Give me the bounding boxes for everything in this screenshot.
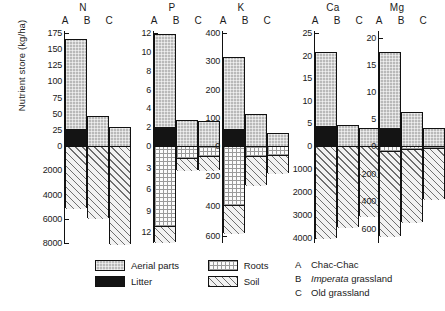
axis-tick-label: 50 [35,109,62,119]
bar-negative-n-B [87,146,109,218]
axis-tick-label: 12 [124,28,151,38]
bar-positive-p-A [154,34,176,146]
bar-positive-mg-B [401,112,423,146]
panel-mg: MgABC05101520200400600 [350,0,436,250]
axis-tick-label: 25 [285,28,312,38]
bar-positive-n-B [87,116,109,146]
segment-soil [424,148,444,199]
bar-negative-ca-A [315,146,337,238]
legend-item-litter: Litter [95,273,205,289]
legend-swatch-soil [208,276,238,287]
segment-aerial-parts [424,129,444,147]
group-labels: ABC [194,15,286,28]
key-row-b: BImperata grassland [295,271,392,285]
segment-soil [316,147,336,239]
bar-positive-mg-A [379,52,401,146]
legend: Aerial partsLitter RootsSoil [95,257,318,289]
bar-negative-k-B [245,146,267,185]
legend-label: Litter [131,276,205,287]
axis-tick-label: 10 [285,96,312,106]
segment-aerial-parts [155,35,175,127]
segment-aerial-parts [88,117,108,147]
panel-p: PABC02468101236912 [125,0,195,250]
axis-tick-label: 20 [349,33,376,43]
axis-tick-label: 0 [124,141,151,151]
axis-tick-label: 0 [349,141,376,151]
axis-tick-label: 300 [193,56,220,66]
axis-tick [314,33,319,34]
segment-litter [380,128,400,147]
segment-aerial-parts [402,113,422,147]
axis-tick-label: 400 [193,201,220,211]
panel-ca: CaABC05101520251000200030004000 [286,0,350,250]
bar-positive-mg-C [423,128,445,146]
group-label-c: C [102,15,116,26]
axis-tick [222,236,227,237]
key-letter: C [295,287,311,298]
key-label: Old grassland [311,287,370,298]
group-label-a: A [308,15,322,26]
segment-soil [402,149,422,223]
key-letter: B [295,273,311,284]
panel-title-k: K [208,2,274,13]
legend-label: Aerial parts [131,260,205,271]
axis-tick [378,38,383,39]
segment-roots [246,147,266,156]
axis-tick-label: 0 [193,141,220,151]
group-label-a: A [372,15,386,26]
bar-negative-mg-C [423,146,445,199]
group-label-a: A [58,15,72,26]
axis-tick [222,33,227,34]
bar-negative-k-A [223,146,245,233]
panel-n: NABC02550751001251501752000400060008000 [36,0,124,250]
axis-tick-label: 10 [124,47,151,57]
group-label-a: A [147,15,161,26]
axis-tick-label: 3000 [285,210,312,220]
segment-aerial-parts [66,40,86,128]
axis-tick-label: 15 [285,73,312,83]
legend-swatch-litter [95,276,125,287]
key-row-c: COld grassland [295,285,392,299]
axis-tick-label: 4000 [35,190,62,200]
axis-tick-label: 2000 [35,165,62,175]
axis-tick-label: 400 [349,196,376,206]
axis-tick-label: 12 [124,227,151,237]
bar-positive-k-A [223,57,245,146]
bar-negative-p-A [154,146,176,242]
group-label-c: C [260,15,274,26]
segment-litter [66,129,86,147]
axis-tick-label: 10 [349,87,376,97]
segment-litter [316,126,336,147]
bar-positive-k-B [245,114,267,146]
axis-tick-label: 6000 [35,214,62,224]
axis-tick [64,219,69,220]
group-label-b: B [330,15,344,26]
zero-line [64,146,131,147]
axis-tick-label: 4 [124,103,151,113]
legend-item-aerial: Aerial parts [95,257,205,273]
key-row-a: AChac-Chac [295,257,392,271]
axis-tick-label: 8 [124,66,151,76]
segment-litter [224,129,244,147]
axis-tick-label: 5 [349,114,376,124]
category-key: AChac-ChacBImperata grasslandCOld grassl… [295,257,392,299]
axis-tick-label: 100 [35,76,62,86]
group-labels: ABC [350,15,436,28]
segment-roots [224,147,244,205]
key-letter: A [295,259,311,270]
segment-soil [155,226,175,243]
segment-soil [246,156,266,186]
axis-tick-label: 2000 [285,187,312,197]
axis-tick-label: 9 [124,206,151,216]
segment-soil [66,147,86,209]
key-label: Imperata grassland [311,273,392,284]
segment-litter [155,127,175,147]
segment-aerial-parts [380,53,400,128]
axis-tick-label: 125 [35,60,62,70]
panel-title-mg: Mg [364,2,430,13]
axis-tick-label: 600 [193,231,220,241]
panel-title-n: N [50,2,116,13]
axis-tick-label: 200 [349,169,376,179]
axis-tick-label: 150 [35,44,62,54]
